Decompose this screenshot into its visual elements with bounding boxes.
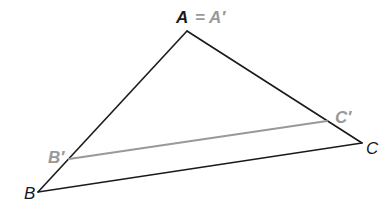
segment-b-prime-c-prime <box>69 121 327 159</box>
label-a-prime: A′ <box>208 8 226 27</box>
label-equals: = <box>195 8 205 27</box>
label-c-prime: C′ <box>335 108 352 127</box>
label-b-prime: B′ <box>48 148 65 167</box>
label-a: A <box>175 8 188 27</box>
label-b: B <box>24 184 35 203</box>
label-c: C <box>366 139 379 158</box>
segment-ab <box>38 31 187 192</box>
segment-bc <box>38 143 362 192</box>
dilation-diagram: A = A′ C′ C B′ B <box>0 0 392 216</box>
